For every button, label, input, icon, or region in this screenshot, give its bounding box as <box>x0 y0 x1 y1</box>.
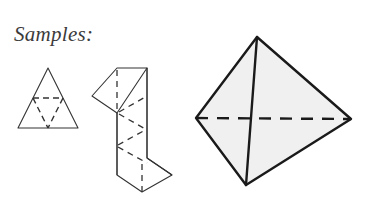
triangle-fold-right <box>48 98 63 128</box>
geometry-illustration <box>0 0 372 198</box>
triangle-fold-left <box>33 98 48 128</box>
strip-top-flap-outline <box>92 68 147 113</box>
strip-net-group <box>92 68 172 192</box>
tetrahedron-body-fill <box>196 37 351 185</box>
strip-bottom-flap-edge <box>147 158 172 175</box>
triangle-net-group <box>18 68 78 128</box>
strip-fold-3 <box>118 129 147 145</box>
strip-fold-4 <box>118 147 147 163</box>
tetrahedron-group <box>196 37 351 185</box>
figure-canvas: Samples: <box>0 0 372 198</box>
strip-fold-2 <box>119 114 147 130</box>
strip-band-outline <box>117 68 172 192</box>
